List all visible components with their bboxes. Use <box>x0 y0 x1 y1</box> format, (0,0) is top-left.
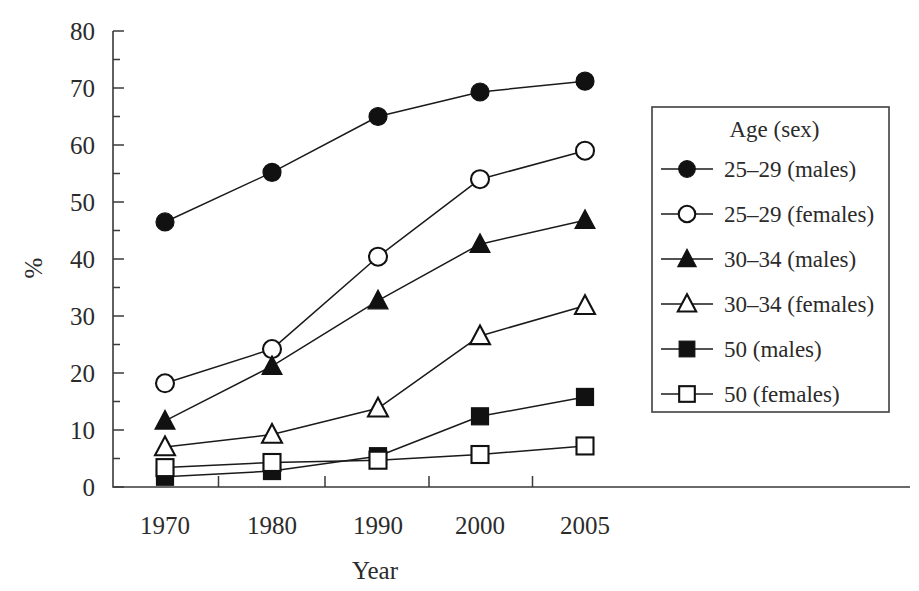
x-axis-ticks: 19701980199020002005 <box>140 476 610 539</box>
y-tick-label: 70 <box>70 75 95 102</box>
legend-item-label: 25–29 (males) <box>724 157 856 182</box>
open-square-marker <box>157 459 174 476</box>
open-circle-marker <box>471 170 489 188</box>
y-tick-label: 10 <box>70 417 95 444</box>
open-triangle-marker <box>368 398 388 417</box>
filled-circle-marker <box>471 83 489 101</box>
filled-square-marker <box>679 341 695 357</box>
open-triangle-marker <box>470 325 490 344</box>
x-tick-label: 1970 <box>140 512 190 539</box>
legend-item-label: 25–29 (females) <box>724 202 874 227</box>
open-square-marker <box>472 446 489 463</box>
x-tick-label: 2005 <box>560 512 610 539</box>
open-square-marker <box>370 452 387 469</box>
line-chart-figure: 0102030405060708019701980199020002005Yea… <box>0 0 919 591</box>
y-tick-label: 50 <box>70 189 95 216</box>
legend-item-label: 50 (males) <box>724 337 822 362</box>
filled-square-marker <box>472 408 489 425</box>
chart-canvas: 0102030405060708019701980199020002005Yea… <box>0 0 919 591</box>
x-tick-label: 2000 <box>455 512 505 539</box>
filled-square-marker <box>577 388 594 405</box>
y-tick-label: 60 <box>70 132 95 159</box>
legend-item-label: 30–34 (females) <box>724 292 874 317</box>
filled-triangle-marker <box>155 410 175 429</box>
open-circle-marker <box>576 142 594 160</box>
filled-triangle-marker <box>575 210 595 229</box>
filled-triangle-marker <box>368 290 388 309</box>
legend-item-label: 30–34 (males) <box>724 247 856 272</box>
series-line <box>165 306 585 447</box>
open-triangle-marker <box>575 295 595 314</box>
series-5 <box>157 437 594 476</box>
y-axis-ticks: 01020304050607080 <box>70 18 124 501</box>
series-2 <box>155 210 595 429</box>
y-axis-title: % <box>20 258 47 279</box>
filled-triangle-marker <box>262 356 282 375</box>
open-circle-marker <box>679 206 696 223</box>
open-square-marker <box>264 454 281 471</box>
open-square-marker <box>577 437 594 454</box>
series-0 <box>156 72 594 231</box>
y-tick-label: 80 <box>70 18 95 45</box>
x-tick-label: 1980 <box>247 512 297 539</box>
series-3 <box>155 295 595 455</box>
legend-item-label: 50 (females) <box>724 382 840 407</box>
filled-circle-marker <box>156 213 174 231</box>
series-line <box>165 151 585 384</box>
open-circle-marker <box>369 248 387 266</box>
series-1 <box>156 142 594 393</box>
legend-title: Age (sex) <box>729 117 819 142</box>
filled-circle-marker <box>369 108 387 126</box>
y-tick-label: 30 <box>70 303 95 330</box>
filled-circle-marker <box>679 161 696 178</box>
y-tick-label: 0 <box>83 474 96 501</box>
open-square-marker <box>679 386 695 402</box>
legend: Age (sex)25–29 (males)25–29 (females)30–… <box>652 107 889 412</box>
filled-circle-marker <box>576 72 594 90</box>
x-tick-label: 1990 <box>353 512 403 539</box>
x-axis-title: Year <box>352 557 399 584</box>
y-tick-label: 20 <box>70 360 95 387</box>
y-tick-label: 40 <box>70 246 95 273</box>
series-line <box>165 81 585 222</box>
open-circle-marker <box>156 374 174 392</box>
filled-circle-marker <box>263 163 281 181</box>
